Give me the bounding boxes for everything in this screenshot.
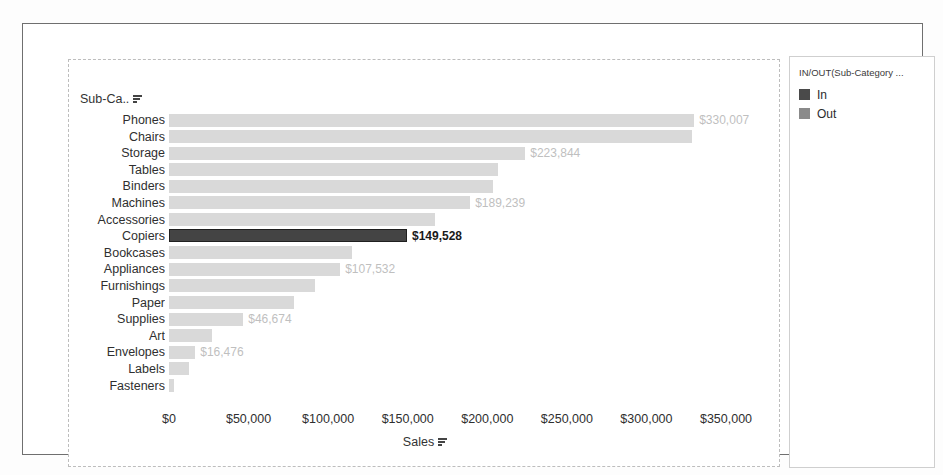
bar-row[interactable]: Supplies$46,674 [69, 311, 781, 328]
bar-category-label[interactable]: Appliances [69, 261, 165, 278]
bar[interactable] [169, 163, 498, 176]
bar-chart-panel[interactable]: Sub-Ca.. Phones$330,007ChairsStorage$223… [68, 59, 780, 467]
bar[interactable] [169, 213, 435, 226]
bar-track: $189,239 [169, 195, 781, 212]
bar-category-label[interactable]: Binders [69, 178, 165, 195]
bar-value-label: $16,476 [200, 345, 243, 359]
bar-value-label: $189,239 [475, 196, 525, 210]
x-axis-tick-label: $50,000 [226, 412, 271, 426]
x-axis-tick-label: $300,000 [620, 412, 672, 426]
bar-category-label[interactable]: Phones [69, 112, 165, 129]
bar-track: $16,476 [169, 344, 781, 361]
bar-row[interactable]: Tables [69, 162, 781, 179]
legend-title: IN/OUT(Sub-Category ... [799, 67, 931, 78]
bar[interactable] [169, 180, 493, 193]
bar-track [169, 278, 781, 295]
legend-item[interactable]: In [799, 85, 836, 104]
bar[interactable] [169, 313, 243, 326]
bar[interactable] [169, 296, 294, 309]
sort-descending-icon[interactable] [438, 438, 447, 447]
bar-track [169, 129, 781, 146]
bar[interactable] [169, 246, 352, 259]
x-axis-tick-label: $350,000 [700, 412, 752, 426]
bar-category-label[interactable]: Chairs [69, 129, 165, 146]
bar[interactable] [169, 362, 189, 375]
dashboard-outer-frame: Sub-Ca.. Phones$330,007ChairsStorage$223… [22, 23, 923, 455]
bar-track [169, 378, 781, 395]
bar-track [169, 328, 781, 345]
bar-track: $223,844 [169, 145, 781, 162]
bar-rows-container: Phones$330,007ChairsStorage$223,844Table… [69, 112, 781, 394]
legend-item[interactable]: Out [799, 104, 836, 123]
bar[interactable] [169, 114, 694, 127]
legend-items-list: InOut [799, 85, 836, 123]
bar-category-label[interactable]: Paper [69, 295, 165, 312]
bar-value-label: $46,674 [248, 312, 291, 326]
bar-row[interactable]: Machines$189,239 [69, 195, 781, 212]
bar[interactable] [169, 130, 692, 143]
legend-item-label: Out [817, 108, 836, 120]
bar-row[interactable]: Bookcases [69, 245, 781, 262]
bar-category-label[interactable]: Furnishings [69, 278, 165, 295]
bar-category-label[interactable]: Copiers [69, 228, 165, 245]
bar-category-label[interactable]: Envelopes [69, 344, 165, 361]
bar-track [169, 212, 781, 229]
bar[interactable] [169, 329, 212, 342]
bar-category-label[interactable]: Supplies [69, 311, 165, 328]
bar-track [169, 245, 781, 262]
legend-swatch-icon [799, 108, 810, 119]
bar-row[interactable]: Paper [69, 295, 781, 312]
bar-track: $330,007 [169, 112, 781, 129]
bar-category-label[interactable]: Labels [69, 361, 165, 378]
x-axis-ticks: $0$50,000$100,000$150,000$200,000$250,00… [169, 412, 781, 434]
legend-item-label: In [817, 89, 827, 101]
bar-row[interactable]: Accessories [69, 212, 781, 229]
chart-plot-area[interactable]: Sub-Ca.. Phones$330,007ChairsStorage$223… [69, 60, 781, 468]
bar-value-label: $330,007 [699, 113, 749, 127]
bar-value-label: $107,532 [345, 262, 395, 276]
bar-row[interactable]: Appliances$107,532 [69, 261, 781, 278]
bar-row[interactable]: Storage$223,844 [69, 145, 781, 162]
bar-value-label: $149,528 [412, 229, 462, 243]
bar-row[interactable]: Chairs [69, 129, 781, 146]
bar-category-label[interactable]: Machines [69, 195, 165, 212]
bar-selected[interactable] [169, 229, 407, 242]
x-axis-tick-label: $200,000 [461, 412, 513, 426]
screenshot-root: Sub-Ca.. Phones$330,007ChairsStorage$223… [0, 0, 943, 475]
bar-row[interactable]: Fasteners [69, 378, 781, 395]
legend-panel[interactable]: IN/OUT(Sub-Category ... InOut [789, 56, 935, 468]
bar-category-label[interactable]: Accessories [69, 212, 165, 229]
bar-row[interactable]: Copiers$149,528 [69, 228, 781, 245]
x-axis-tick-label: $100,000 [302, 412, 354, 426]
bar[interactable] [169, 263, 340, 276]
bar[interactable] [169, 196, 470, 209]
bar[interactable] [169, 379, 174, 392]
sort-descending-icon[interactable] [133, 95, 142, 104]
bar-track [169, 295, 781, 312]
bar-track: $46,674 [169, 311, 781, 328]
x-axis-title[interactable]: Sales [69, 435, 781, 449]
bar[interactable] [169, 147, 525, 160]
bar-row[interactable]: Art [69, 328, 781, 345]
bar-track [169, 178, 781, 195]
bar-track [169, 361, 781, 378]
bar-row[interactable]: Furnishings [69, 278, 781, 295]
bar-category-label[interactable]: Bookcases [69, 245, 165, 262]
bar-category-label[interactable]: Art [69, 328, 165, 345]
x-axis-tick-label: $250,000 [541, 412, 593, 426]
bar-category-label[interactable]: Fasteners [69, 378, 165, 395]
legend-swatch-icon [799, 89, 810, 100]
bar-category-label[interactable]: Tables [69, 162, 165, 179]
bar-row[interactable]: Labels [69, 361, 781, 378]
bar-category-label[interactable]: Storage [69, 145, 165, 162]
bar-row[interactable]: Phones$330,007 [69, 112, 781, 129]
bar[interactable] [169, 279, 315, 292]
bar-row[interactable]: Envelopes$16,476 [69, 344, 781, 361]
x-axis-tick-label: $0 [162, 412, 176, 426]
bar[interactable] [169, 346, 195, 359]
y-axis-field-header[interactable]: Sub-Ca.. [80, 92, 142, 106]
bar-row[interactable]: Binders [69, 178, 781, 195]
bar-track: $107,532 [169, 261, 781, 278]
bar-value-label: $223,844 [530, 146, 580, 160]
y-axis-field-label: Sub-Ca.. [80, 92, 129, 106]
